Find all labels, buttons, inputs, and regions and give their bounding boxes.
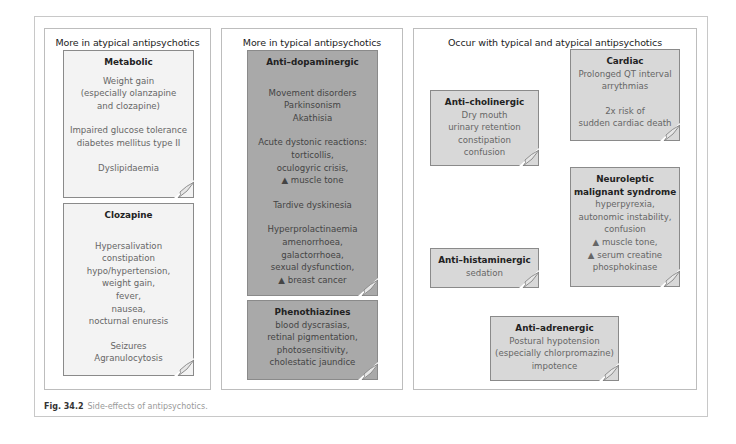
card-line: Acute dystonic reactions: (248, 136, 377, 149)
card-line: sexual dysfunction, (248, 261, 377, 274)
card-title: Anti–dopaminergic (248, 56, 377, 69)
card-line: fever, (64, 290, 193, 303)
card-line: (especially olanzapine (64, 87, 193, 100)
page-curl-icon (519, 270, 539, 288)
card-line: weight gain, (64, 277, 193, 290)
card-line: Dry mouth (431, 109, 538, 122)
page-curl-icon (358, 362, 378, 380)
panel-title: More in atypical antipsychotics (45, 37, 210, 48)
card-line: Weight gain (64, 75, 193, 88)
card-line: Hyperprolactinaemia (248, 223, 377, 236)
card-line: torticollis, (248, 149, 377, 162)
card-title: Neuroleptic malignant syndrome (571, 173, 679, 198)
card-line: Hypersalivation (64, 240, 193, 253)
card-phenothiazines: Phenothiazinesblood dyscrasias,retinal p… (247, 300, 378, 380)
card-nms: Neuroleptic malignant syndromehyperpyrex… (570, 167, 680, 287)
caption-label: Fig. 34.2 (44, 402, 84, 411)
card-line: constipation (431, 134, 538, 147)
card-title: Phenothiazines (248, 306, 377, 319)
card-line: arrythmias (571, 80, 679, 93)
page-curl-icon (660, 123, 680, 141)
card-antihistaminergic: Anti–histaminergicsedation (430, 248, 539, 288)
card-title: Clozapine (64, 209, 193, 222)
card-line: (especially chlorpromazine) (491, 347, 618, 360)
card-title: Cardiac (571, 55, 679, 68)
page-curl-icon (174, 180, 194, 198)
card-line: nocturnal enuresis (64, 315, 193, 328)
card-line: ▲ muscle tone, (571, 236, 679, 249)
card-line: urinary retention (431, 121, 538, 134)
card-line: blood dyscrasias, (248, 319, 377, 332)
card-title: Metabolic (64, 56, 193, 69)
card-line: Dyslipidaemia (64, 162, 193, 175)
card-line: Tardive dyskinesia (248, 199, 377, 212)
card-line: amenorrhoea, (248, 236, 377, 249)
card-title: Anti–histaminergic (431, 254, 538, 267)
card-line: ▲ serum creatine (571, 249, 679, 262)
page-curl-icon (599, 363, 619, 381)
card-line: confusion (571, 223, 679, 236)
card-antiadrenergic: Anti–adrenergicPostural hypotension(espe… (490, 316, 619, 381)
panel-title: Occur with typical and atypical antipsyc… (414, 37, 696, 48)
card-line: Prolonged QT interval (571, 68, 679, 81)
card-line: Impaired glucose tolerance (64, 124, 193, 137)
caption-text: Side-effects of antipsychotics. (88, 402, 208, 411)
panel-title: More in typical antipsychotics (222, 37, 402, 48)
card-line: Seizures (64, 340, 193, 353)
card-line: constipation (64, 252, 193, 265)
card-line: ▲ muscle tone (248, 174, 377, 187)
card-title: Anti–cholinergic (431, 96, 538, 109)
card-line: Parkinsonism (248, 99, 377, 112)
card-line: photosensitivity, (248, 344, 377, 357)
card-metabolic: MetabolicWeight gain(especially olanzapi… (63, 50, 194, 198)
card-clozapine: ClozapineHypersalivationconstipationhypo… (63, 203, 194, 376)
card-line: Postural hypotension (491, 335, 618, 348)
card-line: Akathisia (248, 112, 377, 125)
card-line: and clozapine) (64, 100, 193, 113)
page-curl-icon (358, 278, 378, 296)
page-curl-icon (519, 148, 539, 166)
card-line: retinal pigmentation, (248, 331, 377, 344)
card-line: Movement disorders (248, 87, 377, 100)
card-line: nausea, (64, 303, 193, 316)
card-line: autonomic instability, (571, 211, 679, 224)
figure-caption: Fig. 34.2Side-effects of antipsychotics. (44, 402, 208, 411)
page-curl-icon (660, 269, 680, 287)
card-line: 2x risk of (571, 105, 679, 118)
card-line: hypo/hypertension, (64, 265, 193, 278)
card-cardiac: CardiacProlonged QT intervalarrythmias2x… (570, 49, 680, 141)
card-antidopaminergic: Anti–dopaminergicMovement disordersParki… (247, 50, 378, 296)
card-line: galactorrhoea, (248, 249, 377, 262)
card-line: diabetes mellitus type II (64, 137, 193, 150)
page-curl-icon (174, 358, 194, 376)
card-title: Anti–adrenergic (491, 322, 618, 335)
card-anticholinergic: Anti–cholinergicDry mouthurinary retenti… (430, 90, 539, 166)
card-line: oculogyric crisis, (248, 162, 377, 175)
card-line: hyperpyrexia, (571, 198, 679, 211)
